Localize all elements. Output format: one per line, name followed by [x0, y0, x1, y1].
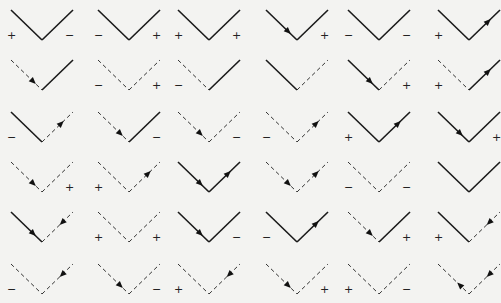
- right-arm-dashed: [42, 264, 73, 294]
- right-sign-label: −: [402, 29, 411, 42]
- right-sign-label: −: [152, 131, 161, 144]
- left-arrow-icon: [284, 179, 291, 186]
- left-arm-dashed: [438, 264, 469, 294]
- left-arrow-icon: [116, 129, 123, 136]
- right-arm-solid: [379, 112, 410, 142]
- vertex-diagram: +−: [5, 8, 81, 48]
- vertex-diagram: +: [342, 210, 418, 250]
- right-sign-label: +: [152, 29, 161, 42]
- left-sign-label: +: [94, 181, 103, 194]
- vertex-diagram: −: [92, 110, 168, 150]
- vertex-diagram: [260, 160, 336, 200]
- right-arm-dashed: [469, 212, 500, 242]
- left-sign-label: −: [7, 131, 16, 144]
- right-arrow-icon: [487, 270, 494, 277]
- vertex-diagram: −: [5, 110, 81, 150]
- vertex-diagram: −: [172, 110, 248, 150]
- vertex-diagram: +: [432, 110, 501, 150]
- right-sign-label: +: [65, 181, 74, 194]
- vertex-diagram: +: [92, 160, 168, 200]
- right-sign-label: +: [152, 231, 161, 244]
- right-sign-label: −: [232, 131, 241, 144]
- vertex-diagram: +: [5, 160, 81, 200]
- right-arrow-icon: [60, 218, 67, 225]
- right-arm-dashed: [42, 212, 73, 242]
- right-sign-label: +: [492, 131, 501, 144]
- right-sign-label: +: [232, 29, 241, 42]
- right-sign-label: −: [152, 283, 161, 296]
- vertex-diagram: +: [432, 8, 501, 48]
- left-arm-solid: [178, 162, 209, 192]
- left-arm-dashed: [11, 60, 42, 90]
- vertex-diagram: +: [260, 8, 336, 48]
- right-arm-dashed: [469, 264, 500, 294]
- right-arm-dashed: [209, 264, 240, 294]
- left-arm-solid: [266, 60, 297, 90]
- left-sign-label: −: [174, 79, 183, 92]
- right-arm-dashed: [297, 60, 328, 90]
- right-arrow-icon: [487, 218, 494, 225]
- vertex-diagram: −+: [92, 58, 168, 98]
- right-arm-dashed: [129, 162, 160, 192]
- left-arrow-icon: [196, 129, 203, 136]
- left-sign-label: +: [344, 131, 353, 144]
- right-sign-label: −: [402, 283, 411, 296]
- right-sign-label: +: [402, 231, 411, 244]
- left-sign-label: +: [94, 231, 103, 244]
- left-sign-label: −: [344, 29, 353, 42]
- vertex-diagram: +−: [342, 262, 418, 302]
- left-arm-dashed: [178, 112, 209, 142]
- vertex-diagram: +: [342, 110, 418, 150]
- right-sign-label: −: [402, 181, 411, 194]
- left-sign-label: +: [434, 231, 443, 244]
- right-sign-label: −: [232, 231, 241, 244]
- vertex-diagram: [260, 58, 336, 98]
- right-arrow-icon: [60, 270, 67, 277]
- left-arm-solid: [11, 212, 42, 242]
- left-sign-label: +: [434, 79, 443, 92]
- vertex-diagram: −−: [342, 8, 418, 48]
- vertex-diagram: +: [432, 210, 501, 250]
- right-sign-label: −: [65, 29, 74, 42]
- right-sign-label: +: [402, 79, 411, 92]
- left-sign-label: +: [174, 283, 183, 296]
- vertex-diagram-grid: +−−++++−−+−+−++−−−−++++−−++−−++−−+++−: [0, 0, 501, 303]
- left-arm-dashed: [348, 212, 379, 242]
- left-arm-solid: [438, 162, 469, 192]
- left-arm-dashed: [11, 162, 42, 192]
- left-sign-label: +: [344, 283, 353, 296]
- left-arm-solid: [438, 112, 469, 142]
- vertex-diagram: [432, 160, 501, 200]
- right-arm-solid: [42, 60, 73, 90]
- left-arrow-icon: [366, 229, 373, 236]
- right-arm-solid: [297, 212, 328, 242]
- left-arm-dashed: [266, 264, 297, 294]
- vertex-diagram: ++: [172, 8, 248, 48]
- left-sign-label: −: [94, 79, 103, 92]
- vertex-diagram: [172, 160, 248, 200]
- right-arm-solid: [469, 10, 500, 40]
- right-sign-label: +: [320, 283, 329, 296]
- left-arm-solid: [348, 60, 379, 90]
- right-arm-solid: [469, 60, 500, 90]
- left-sign-label: −: [94, 29, 103, 42]
- vertex-diagram: −: [260, 210, 336, 250]
- left-arm-dashed: [98, 264, 129, 294]
- vertex-diagram: [432, 262, 501, 302]
- right-arm-dashed: [297, 162, 328, 192]
- right-sign-label: +: [152, 79, 161, 92]
- left-sign-label: −: [7, 283, 16, 296]
- left-sign-label: +: [174, 29, 183, 42]
- vertex-diagram: +: [172, 262, 248, 302]
- vertex-diagram: −: [172, 210, 248, 250]
- right-arm-solid: [209, 162, 240, 192]
- right-arm-solid: [469, 162, 500, 192]
- vertex-diagram: −: [172, 58, 248, 98]
- left-arrow-icon: [284, 281, 291, 288]
- left-sign-label: −: [262, 131, 271, 144]
- left-sign-label: −: [262, 231, 271, 244]
- left-sign-label: +: [434, 29, 443, 42]
- vertex-diagram: [5, 58, 81, 98]
- left-arm-dashed: [98, 112, 129, 142]
- left-arrow-icon: [29, 179, 36, 186]
